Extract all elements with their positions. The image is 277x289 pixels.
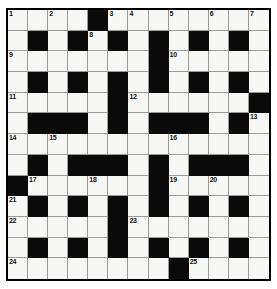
crossword-open-cell[interactable] (68, 134, 88, 155)
crossword-open-cell[interactable] (48, 238, 68, 259)
crossword-open-cell[interactable] (88, 217, 108, 238)
crossword-open-cell[interactable]: 1 (8, 10, 28, 31)
crossword-open-cell[interactable] (229, 51, 249, 72)
crossword-open-cell[interactable] (28, 134, 48, 155)
crossword-open-cell[interactable] (48, 217, 68, 238)
crossword-open-cell[interactable] (229, 258, 249, 279)
crossword-open-cell[interactable] (88, 72, 108, 93)
crossword-open-cell[interactable] (229, 93, 249, 114)
crossword-open-cell[interactable]: 14 (8, 134, 28, 155)
crossword-open-cell[interactable] (8, 113, 28, 134)
crossword-open-cell[interactable] (48, 155, 68, 176)
crossword-open-cell[interactable] (229, 217, 249, 238)
crossword-open-cell[interactable] (209, 51, 229, 72)
crossword-open-cell[interactable] (209, 113, 229, 134)
crossword-open-cell[interactable] (249, 217, 269, 238)
crossword-open-cell[interactable] (169, 155, 189, 176)
crossword-open-cell[interactable] (229, 134, 249, 155)
crossword-open-cell[interactable] (48, 51, 68, 72)
crossword-open-cell[interactable]: 12 (128, 93, 148, 114)
crossword-open-cell[interactable] (128, 134, 148, 155)
crossword-open-cell[interactable] (8, 155, 28, 176)
crossword-open-cell[interactable] (128, 238, 148, 259)
crossword-open-cell[interactable] (189, 134, 209, 155)
crossword-open-cell[interactable]: 23 (128, 217, 148, 238)
crossword-open-cell[interactable]: 22 (8, 217, 28, 238)
crossword-open-cell[interactable]: 20 (209, 176, 229, 197)
crossword-open-cell[interactable] (229, 10, 249, 31)
crossword-open-cell[interactable]: 16 (169, 134, 189, 155)
crossword-open-cell[interactable] (8, 238, 28, 259)
crossword-open-cell[interactable]: 17 (28, 176, 48, 197)
crossword-open-cell[interactable] (108, 258, 128, 279)
crossword-open-cell[interactable] (189, 10, 209, 31)
crossword-open-cell[interactable] (128, 155, 148, 176)
crossword-open-cell[interactable] (169, 31, 189, 52)
crossword-open-cell[interactable] (149, 134, 169, 155)
crossword-open-cell[interactable] (128, 258, 148, 279)
crossword-open-cell[interactable] (169, 93, 189, 114)
crossword-open-cell[interactable] (8, 72, 28, 93)
crossword-open-cell[interactable] (88, 93, 108, 114)
crossword-open-cell[interactable]: 25 (189, 258, 209, 279)
crossword-open-cell[interactable] (88, 196, 108, 217)
crossword-open-cell[interactable] (249, 196, 269, 217)
crossword-open-cell[interactable] (48, 31, 68, 52)
crossword-open-cell[interactable]: 24 (8, 258, 28, 279)
crossword-open-cell[interactable] (149, 10, 169, 31)
crossword-open-cell[interactable] (249, 176, 269, 197)
crossword-open-cell[interactable] (88, 258, 108, 279)
crossword-open-cell[interactable] (128, 72, 148, 93)
crossword-open-cell[interactable] (108, 176, 128, 197)
crossword-open-cell[interactable]: 13 (249, 113, 269, 134)
crossword-open-cell[interactable] (128, 196, 148, 217)
crossword-open-cell[interactable] (209, 196, 229, 217)
crossword-open-cell[interactable] (28, 217, 48, 238)
crossword-open-cell[interactable]: 4 (128, 10, 148, 31)
crossword-open-cell[interactable] (189, 217, 209, 238)
crossword-open-cell[interactable] (48, 72, 68, 93)
crossword-open-cell[interactable] (28, 93, 48, 114)
crossword-open-cell[interactable] (149, 93, 169, 114)
crossword-open-cell[interactable] (128, 51, 148, 72)
crossword-open-cell[interactable] (209, 93, 229, 114)
crossword-open-cell[interactable] (28, 10, 48, 31)
crossword-open-cell[interactable] (28, 51, 48, 72)
crossword-open-cell[interactable] (209, 31, 229, 52)
crossword-open-cell[interactable] (149, 217, 169, 238)
crossword-open-cell[interactable]: 19 (169, 176, 189, 197)
crossword-open-cell[interactable]: 5 (169, 10, 189, 31)
crossword-open-cell[interactable] (48, 93, 68, 114)
crossword-open-cell[interactable]: 2 (48, 10, 68, 31)
crossword-open-cell[interactable] (68, 51, 88, 72)
crossword-open-cell[interactable]: 10 (169, 51, 189, 72)
crossword-open-cell[interactable] (68, 10, 88, 31)
crossword-open-cell[interactable] (209, 72, 229, 93)
crossword-open-cell[interactable] (88, 113, 108, 134)
crossword-open-cell[interactable] (189, 176, 209, 197)
crossword-open-cell[interactable] (128, 176, 148, 197)
crossword-open-cell[interactable]: 6 (209, 10, 229, 31)
crossword-open-cell[interactable] (189, 51, 209, 72)
crossword-open-cell[interactable] (149, 258, 169, 279)
crossword-open-cell[interactable] (48, 258, 68, 279)
crossword-open-cell[interactable] (189, 93, 209, 114)
crossword-open-cell[interactable]: 21 (8, 196, 28, 217)
crossword-open-cell[interactable]: 7 (249, 10, 269, 31)
crossword-open-cell[interactable] (229, 176, 249, 197)
crossword-open-cell[interactable] (28, 258, 48, 279)
crossword-open-cell[interactable] (209, 238, 229, 259)
crossword-grid[interactable]: 1234567891011121314151617181920212223242… (8, 10, 269, 279)
crossword-open-cell[interactable] (169, 238, 189, 259)
crossword-open-cell[interactable]: 3 (108, 10, 128, 31)
crossword-open-cell[interactable] (128, 31, 148, 52)
crossword-open-cell[interactable] (169, 72, 189, 93)
crossword-open-cell[interactable] (68, 217, 88, 238)
crossword-open-cell[interactable]: 8 (88, 31, 108, 52)
crossword-open-cell[interactable] (68, 93, 88, 114)
crossword-open-cell[interactable] (249, 134, 269, 155)
crossword-open-cell[interactable] (249, 258, 269, 279)
crossword-open-cell[interactable] (209, 134, 229, 155)
crossword-open-cell[interactable] (209, 258, 229, 279)
crossword-open-cell[interactable] (169, 196, 189, 217)
